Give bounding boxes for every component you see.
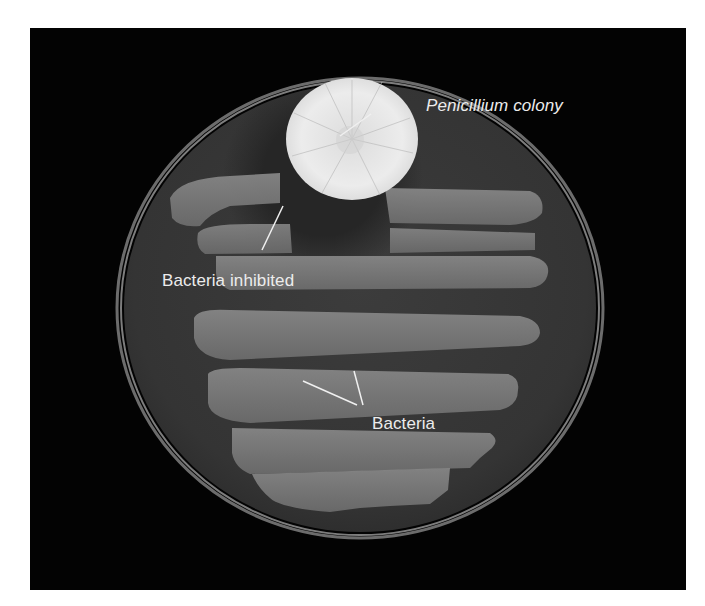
penicillium-colony: [286, 78, 418, 200]
penicillium-colony-label: Penicillium colony: [426, 96, 563, 116]
petri-dish-photo: Penicillium colony Bacteria inhibited Ba…: [30, 28, 686, 590]
bacteria-inhibited-label: Bacteria inhibited: [162, 271, 294, 291]
petri-dish-illustration: [30, 28, 686, 590]
bacteria-label: Bacteria: [372, 414, 435, 434]
